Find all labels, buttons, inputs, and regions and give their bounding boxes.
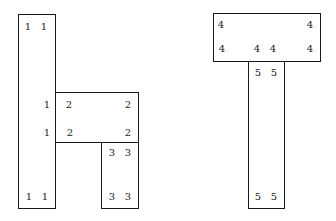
region-label: 4 [307,20,313,30]
region-label: 2 [67,128,73,138]
right-figure-rect-5 [248,61,285,209]
region-label: 1 [25,22,31,32]
region-label: 3 [125,148,131,158]
right-figure-rect-4 [213,13,321,62]
region-label: 3 [109,148,115,158]
region-label: 2 [125,100,131,110]
region-label: 3 [125,192,131,202]
region-label: 2 [125,128,131,138]
region-label: 5 [255,68,261,78]
region-label: 1 [26,192,32,202]
region-label: 4 [270,44,276,54]
left-figure-rect-1 [18,14,56,209]
region-label: 4 [218,20,224,30]
region-label: 5 [255,192,261,202]
region-label: 5 [271,192,277,202]
left-figure-rect-3 [101,142,139,209]
region-label: 5 [271,68,277,78]
region-label: 1 [44,128,50,138]
region-label: 4 [307,44,313,54]
region-label: 4 [254,44,260,54]
region-label: 4 [219,44,225,54]
region-label: 2 [66,100,72,110]
region-label: 1 [41,22,47,32]
region-label: 1 [42,192,48,202]
region-label: 3 [109,192,115,202]
region-label: 1 [44,100,50,110]
